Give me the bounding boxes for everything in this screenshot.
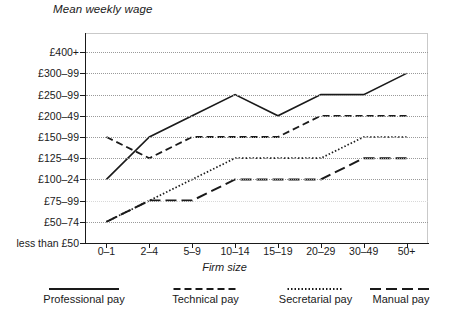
legend-label: Professional pay — [43, 293, 124, 305]
x-axis-label: 15–19 — [263, 245, 292, 257]
chart-legend: Professional payTechnical paySecretarial… — [0, 285, 449, 319]
y-axis-tick — [80, 158, 85, 159]
y-axis-label: £250–99 — [38, 89, 79, 101]
y-axis-tick — [80, 95, 85, 96]
y-axis-tick — [80, 179, 85, 180]
x-axis-label: 20–29 — [306, 245, 335, 257]
x-axis-labels: 0–12–45–910–1415–1920–2930–4950+ — [85, 245, 429, 261]
y-axis-label: £50–74 — [44, 216, 79, 228]
gridline — [86, 179, 428, 180]
gridline — [86, 95, 428, 96]
y-axis-label: £300–99 — [38, 67, 79, 79]
gridline — [86, 137, 428, 138]
plot-area — [85, 33, 428, 243]
legend-line-swatch — [355, 285, 447, 293]
y-axis-label: less than £50 — [17, 237, 79, 249]
y-axis-label: £150–99 — [38, 131, 79, 143]
wage-by-firm-size-chart: Mean weekly wage less than £50£50–74£75–… — [0, 0, 449, 322]
gridline — [86, 52, 428, 53]
y-axis-label: £100–24 — [38, 173, 79, 185]
plot-frame-right — [427, 33, 428, 243]
legend-label: Secretarial pay — [279, 293, 352, 305]
gridline — [86, 158, 428, 159]
plot-frame-top — [85, 33, 428, 34]
series-line — [106, 73, 406, 179]
y-axis-tick — [80, 137, 85, 138]
x-axis-title: Firm size — [0, 261, 449, 273]
gridline — [86, 201, 428, 202]
x-axis-label: 50+ — [398, 245, 416, 257]
y-axis-label: £125–49 — [38, 152, 79, 164]
legend-label: Technical pay — [172, 293, 239, 305]
gridline — [86, 222, 428, 223]
legend-line-swatch — [14, 285, 154, 293]
x-axis-label: 30–49 — [349, 245, 378, 257]
y-axis-line — [85, 33, 86, 244]
gridline — [86, 116, 428, 117]
gridline — [86, 73, 428, 74]
y-axis-tick — [80, 201, 85, 202]
y-axis-tick — [80, 116, 85, 117]
legend-label: Manual pay — [373, 293, 430, 305]
data-series-layer — [85, 33, 428, 243]
y-axis-tick — [80, 52, 85, 53]
series-line — [106, 158, 406, 222]
x-axis-label: 5–9 — [183, 245, 201, 257]
x-axis-label: 0–1 — [98, 245, 116, 257]
y-axis-label: £200–49 — [38, 110, 79, 122]
y-axis-label: £75–99 — [44, 195, 79, 207]
x-axis-line — [85, 243, 429, 244]
y-axis-tick — [80, 73, 85, 74]
y-axis-tick — [80, 222, 85, 223]
y-axis-labels: less than £50£50–74£75–99£100–24£125–49£… — [0, 0, 82, 250]
y-axis-label: £400+ — [50, 46, 80, 58]
x-axis-label: 10–14 — [220, 245, 249, 257]
x-axis-label: 2–4 — [141, 245, 159, 257]
y-axis-tick — [80, 243, 85, 244]
